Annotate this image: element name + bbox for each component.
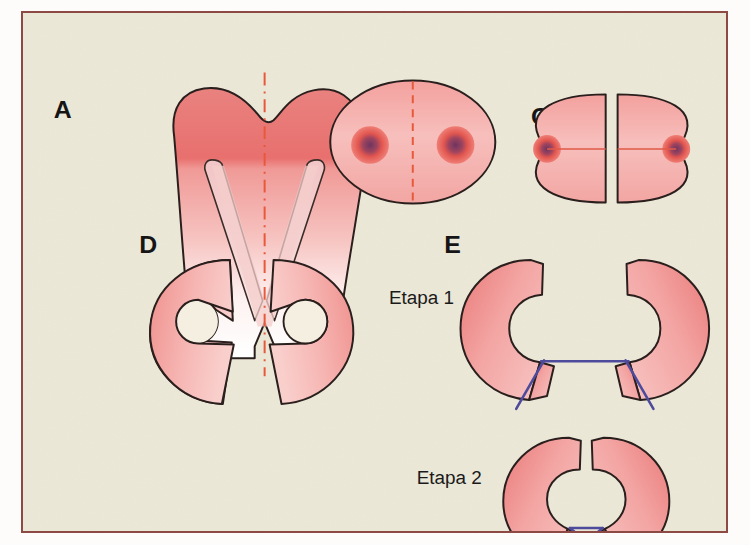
figure-frame: A B C [21, 11, 728, 533]
root-canal-b-left [351, 126, 389, 164]
stage-2-label: Etapa 2 [417, 467, 482, 488]
panel-b: B [330, 80, 495, 203]
root-canal-b-right [437, 126, 475, 164]
panel-d-letter: D [139, 231, 157, 258]
panel-e-letter: E [444, 231, 461, 258]
figure-canvas: A B C [23, 13, 726, 531]
retention-hole-d-right [284, 300, 328, 344]
panel-a-letter: A [54, 96, 72, 123]
figure-root: A B C [0, 0, 750, 545]
stage-1-label: Etapa 1 [389, 287, 454, 308]
